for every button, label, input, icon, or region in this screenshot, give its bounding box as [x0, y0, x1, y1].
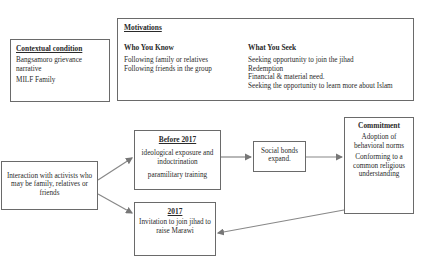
arrow-commitment-to-2017 — [218, 210, 344, 233]
connector-arrows — [0, 0, 423, 266]
arrow-interaction-to-before2017 — [98, 158, 132, 180]
arrow-interaction-to-2017 — [98, 194, 132, 213]
